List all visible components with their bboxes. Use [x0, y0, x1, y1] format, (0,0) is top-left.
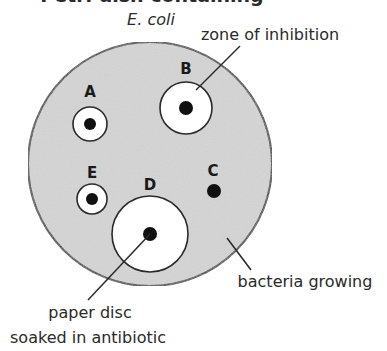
- paper-disc-e: [86, 193, 98, 205]
- disc-label-b: B: [180, 60, 191, 78]
- soaked-in-antibiotic-label: soaked in antibiotic: [10, 328, 166, 347]
- paper-disc-a: [84, 118, 96, 130]
- paper-disc-b: [179, 101, 193, 115]
- disc-label-c: C: [207, 162, 218, 180]
- bacteria-growing-label: bacteria growing: [238, 272, 373, 291]
- petri-dish-diagram: Petri dish containing E. coli ABCDE zone…: [0, 0, 387, 351]
- disc-label-d: D: [144, 176, 156, 194]
- diagram-title: Petri dish containing: [40, 0, 263, 6]
- paper-disc-label: paper disc: [48, 303, 131, 322]
- paper-disc-c: [207, 184, 221, 198]
- zone-of-inhibition-label: zone of inhibition: [201, 25, 339, 44]
- organism-label: E. coli: [127, 10, 175, 29]
- disc-label-a: A: [84, 83, 96, 101]
- disc-label-e: E: [87, 164, 97, 182]
